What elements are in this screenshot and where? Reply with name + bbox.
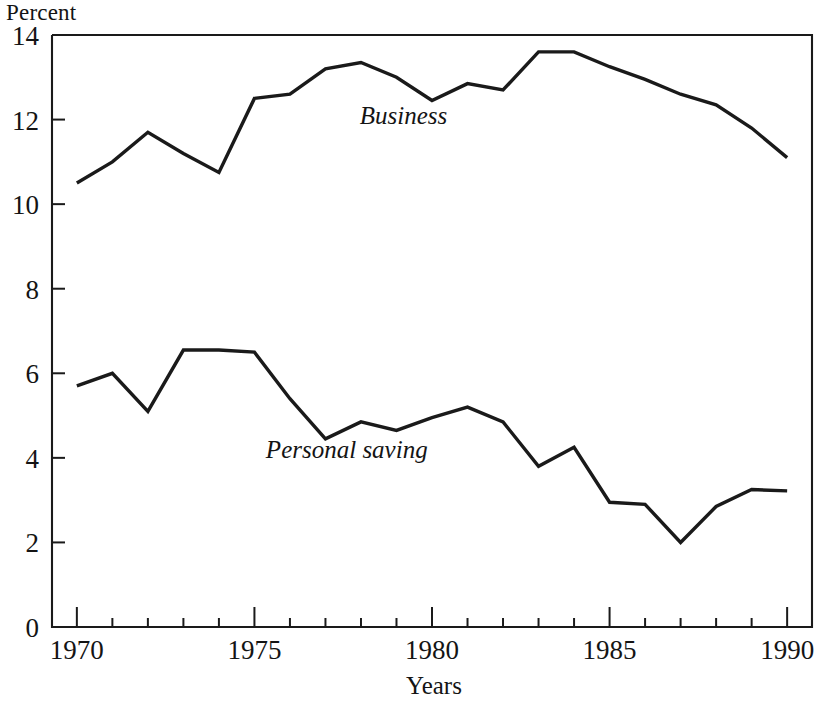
savings-rate-line-chart: Percent 02468101214 19701975198019851990…	[0, 0, 830, 714]
y-tick-label: 14	[12, 21, 40, 51]
x-axis-tick-labels: 19701975198019851990	[50, 635, 814, 665]
y-tick-label: 0	[26, 613, 40, 643]
x-tick-label: 1985	[583, 635, 637, 665]
series-line-personal-saving	[77, 350, 787, 542]
x-tick-label: 1990	[760, 635, 814, 665]
y-tick-label: 10	[12, 190, 39, 220]
y-tick-label: 6	[26, 359, 40, 389]
y-axis-ticks	[52, 120, 65, 543]
y-tick-label: 8	[26, 275, 40, 305]
series-annotations: BusinessPersonal saving	[265, 102, 447, 463]
x-axis-ticks	[77, 607, 787, 627]
x-tick-label: 1980	[405, 635, 459, 665]
x-axis-title: Years	[0, 672, 830, 700]
chart-canvas: 02468101214 19701975198019851990 Busines…	[0, 0, 830, 714]
y-tick-label: 4	[26, 444, 40, 474]
y-tick-label: 2	[26, 528, 40, 558]
y-axis-tick-labels: 02468101214	[12, 21, 40, 643]
x-tick-label: 1975	[227, 635, 281, 665]
x-axis-title-text: Years	[406, 672, 462, 700]
y-tick-label: 12	[12, 106, 39, 136]
series-label-business: Business	[360, 102, 448, 129]
x-tick-label: 1970	[50, 635, 104, 665]
series-label-personal-saving: Personal saving	[265, 436, 428, 463]
